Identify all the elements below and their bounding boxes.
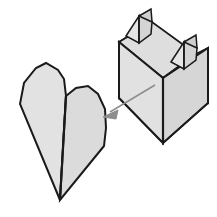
origami-diagram-root: Paper folding step: collapse pleated for…	[0, 0, 217, 217]
fold-diagram-canvas	[0, 0, 217, 217]
